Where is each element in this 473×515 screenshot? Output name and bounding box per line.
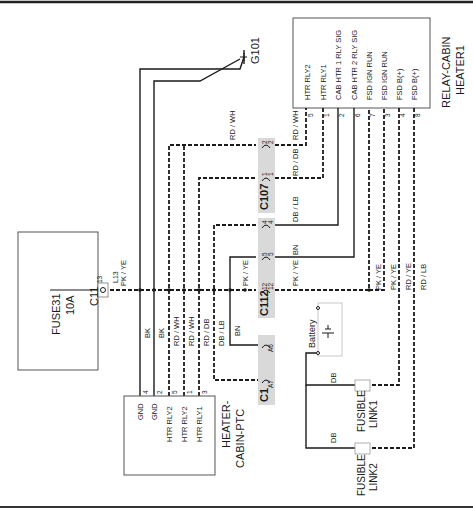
- relay-pin-numbers: 5 1 2 6 7 3 4 8: [307, 113, 421, 117]
- heater-cabin-ptc: GND GND HTR RLY2 HTR RLY2 HTR RLY1 4 2 5…: [124, 390, 246, 475]
- wiring-diagram: .w { stroke:#1a1a1a; stroke-width:1.4; f…: [0, 0, 473, 515]
- relay-cabin-heater1: HTR RLY2 HTR RLY1 CAB HTR 1 RLY SIG CAB …: [293, 18, 466, 117]
- relay-pin-number: 6: [354, 113, 361, 117]
- c112-label: C112: [258, 290, 270, 316]
- c1-label: C1: [258, 388, 270, 402]
- wire-label: DB: [329, 433, 338, 443]
- relay-pin-number: 8: [414, 113, 421, 117]
- wire-label: BK: [143, 328, 152, 338]
- wire-label: PK / YE: [291, 260, 300, 286]
- fusible-link1-line1: FUSIBLE: [356, 390, 367, 432]
- c107-pin: 1: [267, 172, 274, 176]
- wire-label: BK: [157, 328, 166, 338]
- fuse-pin-icon: [101, 288, 106, 293]
- relay-pin-number: 7: [369, 113, 376, 117]
- relay-pin-label: FSD IGN RUN: [365, 51, 374, 100]
- fuse-terminal-label: L13: [112, 271, 119, 283]
- wire-label: BN: [291, 245, 300, 255]
- wire-label: RD / WH: [291, 110, 300, 140]
- heater-pin-number: 5: [171, 390, 178, 394]
- fusible-link1-body: [355, 380, 370, 391]
- wire-label: RD / WH: [187, 316, 196, 346]
- wire-label: RD / YE: [404, 263, 413, 290]
- c107-label: C107: [258, 184, 270, 210]
- wire-label: PK / YE: [389, 264, 398, 290]
- battery-terminal-icon: [317, 352, 320, 355]
- wire-label: RD / LB: [419, 264, 428, 290]
- ground-label: G101: [249, 37, 261, 64]
- heater-pin-label: HTR RLY1: [195, 406, 204, 442]
- wire-label: RD / WH: [228, 110, 237, 140]
- heater-pin-label: HTR RLY2: [165, 406, 174, 442]
- heater-pin-label: GND: [136, 403, 145, 420]
- wire-label: DB: [329, 373, 338, 383]
- heater-pin-label: GND: [150, 403, 159, 420]
- relay-pin-label: FSD B(+): [410, 68, 419, 100]
- relay-pin-number: 3: [384, 113, 391, 117]
- c112-pin: 5: [267, 252, 274, 256]
- battery-label: Battery: [307, 319, 317, 348]
- wire-label: BN: [233, 326, 242, 336]
- wire-rd-db-3: [199, 178, 256, 396]
- c1-pin: A6: [267, 344, 274, 352]
- wire-pk-ye-relay3: [369, 108, 384, 290]
- wire-label: RD / WH: [172, 316, 181, 346]
- wire-rd-ye-relay4: [355, 108, 399, 385]
- wire-label: PK / YE: [241, 260, 250, 286]
- connector-c112: 4 4 5 5 12 12 C112: [258, 218, 275, 318]
- wire-db-lb: [214, 225, 258, 380]
- heater-title-line1: HEATER-: [220, 400, 232, 448]
- relay-pin-label: HTR RLY1: [319, 64, 328, 100]
- heater-pin-number: 2: [156, 390, 163, 394]
- fuse-rating: 10A: [64, 295, 76, 315]
- heater-pin-number: 1: [186, 390, 193, 394]
- wire-bk-gnd2: [154, 59, 240, 396]
- fuse31: FUSE31 10A C11 13 L13: [18, 232, 119, 370]
- relay-pin-label: FSD B(+): [395, 68, 404, 100]
- wire-label: PK / YE: [119, 260, 128, 286]
- heater-pin-label: HTR RLY2: [180, 406, 189, 442]
- wire-bn-relay6: [275, 108, 354, 257]
- c107-pin: 2: [267, 140, 274, 144]
- heater-title-line2: CABIN-PTC: [234, 409, 246, 468]
- heater-pin-number: 4: [142, 390, 149, 394]
- relay-pin-number: 5: [307, 113, 314, 117]
- wire-label: RD / DB: [291, 148, 300, 176]
- fusible-link2-body: [355, 443, 370, 454]
- relay-title-line1: RELAY-CABIN: [440, 36, 452, 108]
- wire-pk-ye-relay7: [275, 108, 369, 290]
- heater-pin-number: 3: [201, 390, 208, 394]
- fusible-link2-line1: FUSIBLE: [356, 454, 367, 496]
- wire-label: RD / DB: [202, 318, 211, 346]
- relay-pin-label: FSD IGN RUN: [380, 51, 389, 100]
- relay-pin-number: 4: [399, 113, 406, 117]
- relay-pin-label: CAB HTR 2 RLY SIG: [350, 30, 359, 100]
- c112-pin: 12: [267, 282, 274, 290]
- connector-c1: A6 A7 C1: [258, 335, 275, 405]
- relay-pin-number: 2: [338, 113, 345, 117]
- battery-terminal-icon: [317, 307, 320, 310]
- c112-pin: 4: [267, 220, 274, 224]
- wire-label: DB / LB: [291, 196, 300, 222]
- fusible-link2-line2: LINK2: [368, 463, 379, 491]
- connector-c107: 2 2 1 1 C107: [258, 138, 275, 213]
- fusible-link1-line2: LINK1: [368, 400, 379, 428]
- relay-title-line2: HEATER1: [454, 45, 466, 95]
- fuse-name: FUSE31: [50, 293, 62, 335]
- wire-label: DB / LB: [217, 320, 226, 346]
- relay-pin-number: 1: [323, 113, 330, 117]
- fuse-connector: C11: [88, 287, 100, 306]
- battery: Battery: [307, 303, 342, 356]
- wire-label: PK / YE: [374, 264, 383, 290]
- fuse-pin: 13: [96, 275, 103, 283]
- relay-pin-label: CAB HTR 1 RLY SIG: [334, 30, 343, 100]
- fusible-link2: FUSIBLE LINK2: [355, 443, 379, 496]
- relay-pin-label: HTR RLY2: [303, 64, 312, 100]
- fusible-link1: FUSIBLE LINK1: [355, 380, 379, 432]
